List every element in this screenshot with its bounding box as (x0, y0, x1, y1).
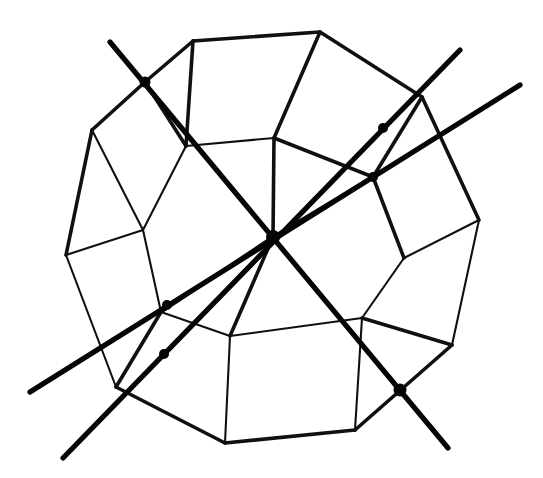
marker-left-lower (162, 300, 172, 310)
marker-center (266, 230, 280, 244)
polyhedron-edge (273, 138, 274, 237)
marker-lower-left (159, 349, 169, 359)
marker-upper-left (140, 77, 151, 88)
figure-root: Dodecahedron with three 2-fold symmetry … (0, 0, 543, 478)
dodecahedron-diagram: Dodecahedron with three 2-fold symmetry … (0, 0, 543, 478)
marker-right-upper (368, 172, 378, 182)
marker-upper-right (378, 123, 388, 133)
marker-lower-right (394, 384, 407, 397)
